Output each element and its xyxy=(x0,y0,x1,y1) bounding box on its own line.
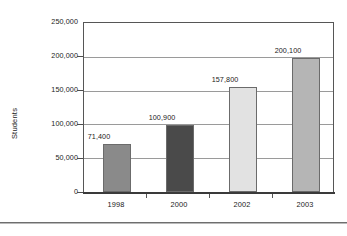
y-tick-label: 150,000 xyxy=(32,86,78,94)
bar-value-label: 157,800 xyxy=(204,75,246,84)
y-tick-label: 50,000 xyxy=(32,154,78,162)
x-tick-label: 2003 xyxy=(296,200,313,209)
x-tick-label: 2002 xyxy=(233,200,250,209)
x-tick-mark xyxy=(272,194,273,198)
bar-value-label: 200,100 xyxy=(267,46,309,55)
x-tick-label: 1998 xyxy=(107,200,124,209)
y-axis-tick-labels: 250,000 200,000 150,000 100,000 50,000 0 xyxy=(28,0,78,236)
y-tick-label: 0 xyxy=(32,188,78,196)
y-axis-title: Students xyxy=(8,88,22,158)
x-tick-mark xyxy=(146,194,147,198)
bar-2002[interactable] xyxy=(229,87,257,192)
y-tick-label: 200,000 xyxy=(32,52,78,60)
x-tick-label: 2000 xyxy=(170,200,187,209)
bottom-divider-shadow xyxy=(0,223,347,224)
y-tick-label: 100,000 xyxy=(32,120,78,128)
bar-2003[interactable] xyxy=(292,58,320,192)
y-tick-label: 250,000 xyxy=(32,18,78,26)
bar-chart: Students 250,000 200,000 150,000 100,000… xyxy=(0,0,347,236)
y-axis-title-text: Students xyxy=(11,107,20,138)
bar-value-label: 100,900 xyxy=(141,113,183,122)
bar-1998[interactable] xyxy=(103,144,131,192)
bar-value-label: 71,400 xyxy=(78,132,120,141)
bar-2000[interactable] xyxy=(166,125,194,192)
x-tick-mark xyxy=(209,194,210,198)
